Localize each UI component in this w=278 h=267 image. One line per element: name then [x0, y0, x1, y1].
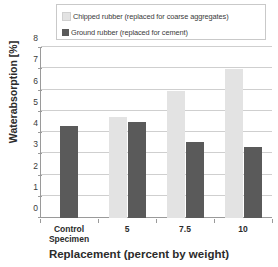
water-absorption-bar-chart: Chipped rubber (replaced for coarse aggr…: [0, 0, 278, 267]
legend-swatch-icon-chipped-rubber: [62, 12, 71, 21]
x-tick-label: 7.5: [156, 224, 214, 234]
bar: [167, 91, 185, 219]
y-tick-label: 1: [22, 182, 38, 192]
y-tick-label: 0: [22, 203, 38, 213]
x-tick-mark: [272, 219, 273, 223]
y-tick-label: 8: [22, 33, 38, 43]
bar: [186, 142, 204, 219]
legend-swatch-icon-ground-rubber: [62, 29, 69, 36]
y-tick-label: 4: [22, 118, 38, 128]
y-tick-label: 7: [22, 54, 38, 64]
x-tick-mark: [40, 219, 41, 223]
x-tick-label: 10: [214, 224, 272, 234]
legend-item-ground-rubber: Ground rubber (replaced for cement): [62, 25, 261, 39]
y-tick-label: 6: [22, 76, 38, 86]
x-axis-title: Replacement (percent by weight): [0, 248, 278, 260]
bar: [244, 147, 262, 218]
x-tick-mark: [156, 219, 157, 223]
bars-layer: [40, 48, 272, 218]
y-axis-ticks: 012345678: [18, 48, 38, 218]
x-tick-label: ControlSpecimen: [40, 224, 98, 244]
x-axis-labels: ControlSpecimen57.510: [40, 224, 272, 250]
legend-label-chipped-rubber: Chipped rubber (replaced for coarse aggr…: [73, 12, 229, 21]
gridline: [41, 46, 272, 47]
x-tick-label: 5: [98, 224, 156, 234]
x-tick-mark: [98, 219, 99, 223]
y-tick-label: 2: [22, 161, 38, 171]
legend-label-ground-rubber: Ground rubber (replaced for cement): [71, 28, 188, 37]
bar: [60, 126, 78, 218]
y-tick-label: 5: [22, 97, 38, 107]
x-tick-mark: [214, 219, 215, 223]
y-tick-label: 3: [22, 139, 38, 149]
legend-item-chipped-rubber: Chipped rubber (replaced for coarse aggr…: [62, 9, 261, 23]
bar: [225, 69, 243, 218]
bar: [128, 122, 146, 218]
chart-legend: Chipped rubber (replaced for coarse aggr…: [56, 4, 266, 40]
bar: [109, 117, 127, 218]
